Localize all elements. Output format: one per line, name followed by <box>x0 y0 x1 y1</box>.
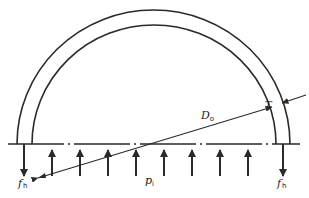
shell-diagram: Do T pi fh fh <box>0 0 309 198</box>
hoop-force-label-left: fh <box>17 177 28 190</box>
diameter-dimension-line <box>38 107 272 178</box>
thickness-label: T <box>265 99 273 110</box>
inner-wall-arc <box>32 25 276 144</box>
hoop-force-label-right: fh <box>276 177 287 190</box>
pressure-label: pi <box>145 174 154 188</box>
diameter-start-arrowhead <box>38 173 46 178</box>
pressure-arrows <box>52 150 248 176</box>
thickness-leader <box>282 95 306 103</box>
outer-wall-arc <box>17 10 290 144</box>
diameter-label: Do <box>200 109 214 123</box>
